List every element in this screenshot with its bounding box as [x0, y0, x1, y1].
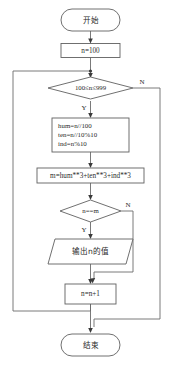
node-cube-sum[interactable]: m=hum**3+ten**3+ind**3: [37, 168, 144, 183]
start-label: 开始: [83, 15, 99, 25]
range-check-label: 100≤n≤999: [75, 84, 107, 91]
arrowhead-output: [88, 234, 93, 239]
node-increment[interactable]: n=n+1: [65, 284, 116, 304]
node-start[interactable]: 开始: [61, 9, 120, 31]
flowchart-canvas: 开始 n=100 100≤n≤999 N Y hum=n//100 ten=n/…: [0, 0, 181, 366]
init-label: n=100: [81, 47, 100, 55]
node-output[interactable]: 输出n的值: [48, 239, 133, 264]
output-label: 输出n的值: [72, 246, 109, 256]
digits-line1: hum=n//100: [58, 122, 92, 129]
connector-increment-loopback: [13, 71, 91, 311]
increment-label: n=n+1: [81, 290, 100, 298]
arrowhead-equal-check: [88, 195, 93, 200]
arrowhead-digits: [88, 113, 93, 118]
equal-check-no-label: N: [125, 201, 130, 209]
end-label: 结束: [83, 340, 99, 350]
node-digits[interactable]: hum=n//100 ten=n//10%10 ind=n%10: [52, 118, 129, 152]
node-equal-check[interactable]: n==m N Y: [60, 200, 131, 234]
node-range-check[interactable]: 100≤n≤999 N Y: [48, 77, 145, 112]
flowchart-page: 开始 n=100 100≤n≤999 N Y hum=n//100 ten=n/…: [0, 0, 181, 366]
equal-check-yes-label: Y: [81, 226, 86, 234]
equal-check-label: n==m: [82, 207, 99, 214]
digits-line2: ten=n//10%10: [58, 131, 98, 138]
node-end[interactable]: 结束: [61, 334, 120, 356]
arrowhead-cube-sum: [88, 163, 93, 168]
node-init[interactable]: n=100: [61, 44, 120, 58]
cube-sum-label: m=hum**3+ten**3+ind**3: [50, 172, 131, 180]
range-check-no-label: N: [139, 78, 144, 86]
range-check-yes-label: Y: [81, 104, 86, 112]
digits-line3: ind=n%10: [58, 140, 87, 147]
arrowhead-init: [88, 39, 93, 44]
arrowhead-end: [88, 328, 93, 333]
junction-dot-loop-entry: [89, 69, 92, 72]
